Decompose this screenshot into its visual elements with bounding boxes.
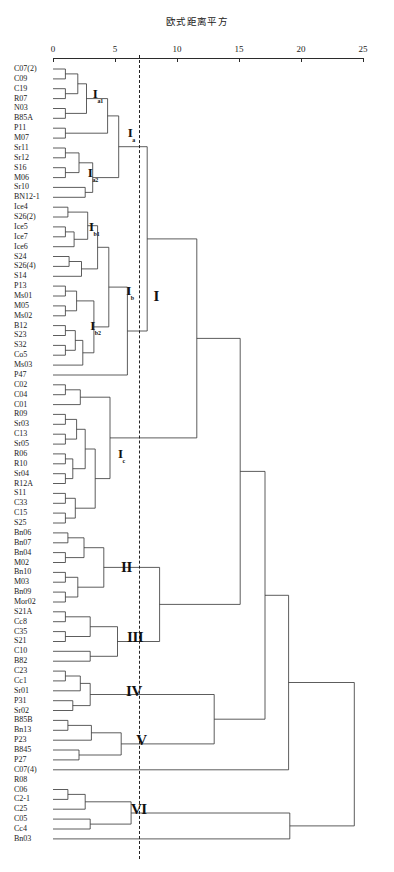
dendrogram-link [110, 239, 197, 438]
dendrogram-link [53, 454, 65, 464]
dendrogram-link [53, 474, 65, 484]
dendrogram-link [65, 459, 72, 479]
dendrogram-link [53, 676, 80, 691]
dendrogram-link [53, 89, 65, 99]
cluster-label-III: III [127, 628, 143, 646]
cluster-label-I-b2: Ib2 [90, 316, 101, 335]
dendrogram-figure: 欧式距离平方 0510152025 C07(2)C09C19R07N03B85A… [0, 0, 394, 872]
dendrogram-link [160, 338, 241, 604]
dendrogram-link [90, 627, 117, 657]
dendrogram-link [65, 498, 75, 518]
dendrogram-link [53, 340, 83, 365]
dendrogram-link [289, 683, 355, 826]
dendrogram-link [65, 84, 86, 114]
dendrogram-link [53, 819, 90, 829]
dendrogram-link [53, 414, 65, 424]
cluster-label-I-a: Ia [128, 124, 135, 143]
dendrogram-link [65, 153, 79, 173]
dendrogram-link [53, 227, 65, 237]
dendrogram-link [53, 232, 74, 247]
dendrogram-link [85, 802, 131, 824]
cluster-label-I-c: Ic [118, 444, 125, 463]
dendrogram-link [53, 390, 80, 405]
dendrogram-link [53, 207, 68, 217]
dendrogram-link [73, 429, 85, 468]
cluster-label-II: II [121, 558, 132, 576]
dendrogram-link [53, 725, 91, 740]
dendrogram-link [73, 683, 90, 705]
dendrogram-link [53, 632, 65, 642]
dendrogram-link [78, 548, 104, 588]
dendrogram-link [53, 612, 65, 622]
dendrogram-link [53, 109, 65, 119]
cluster-label-I: I [154, 287, 159, 305]
cluster-label-I-a2: Ia2 [88, 163, 98, 182]
dendrogram-link [53, 168, 65, 178]
dendrogram-link [53, 187, 85, 197]
dendrogram-link [65, 617, 90, 637]
dendrogram-link [94, 247, 109, 327]
dendrogram-link [53, 720, 68, 730]
dendrogram-link [65, 419, 76, 439]
dendrogram-link [53, 128, 65, 138]
dendrogram-link [90, 695, 214, 744]
dendrogram-link [53, 572, 65, 582]
dendrogram-link [53, 148, 65, 158]
dendrogram-link [53, 434, 65, 444]
dendrogram-link [65, 74, 77, 94]
dendrogram-link [79, 733, 121, 755]
dendrogram-link [119, 147, 148, 331]
dendrogram-link [53, 286, 65, 296]
cluster-label-I-a1: Ia1 [93, 84, 103, 103]
dendrogram-link [65, 291, 76, 311]
dendrogram-link [53, 306, 65, 316]
dendrogram-link [53, 345, 65, 355]
dendrogram-link [68, 212, 88, 239]
dendrogram-tree [0, 0, 394, 872]
dendrogram-link [53, 592, 65, 602]
dendrogram-link [214, 471, 265, 719]
dendrogram-link [53, 69, 65, 79]
dendrogram-link [53, 813, 290, 839]
dendrogram-link [53, 794, 85, 809]
cluster-label-V: V [136, 731, 146, 749]
dendrogram-link [53, 326, 65, 336]
dendrogram-link [65, 577, 77, 597]
dendrogram-link [53, 533, 68, 543]
dendrogram-link [53, 262, 82, 277]
cluster-label-VI: VI [131, 800, 147, 818]
dendrogram-link [53, 671, 65, 681]
cluster-label-IV: IV [126, 682, 142, 700]
dendrogram-link [53, 750, 79, 760]
cluster-label-I-b: Ib [126, 281, 134, 300]
dendrogram-link [53, 493, 65, 503]
cluster-label-I-b1: Ib1 [89, 217, 100, 236]
dendrogram-link [53, 513, 65, 523]
dendrogram-link [53, 257, 69, 267]
dendrogram-link [53, 553, 65, 563]
dendrogram-link [53, 651, 90, 661]
dendrogram-link [53, 385, 65, 395]
dendrogram-link [53, 701, 73, 711]
dendrogram-link [65, 331, 75, 351]
dendrogram-link [53, 790, 68, 800]
